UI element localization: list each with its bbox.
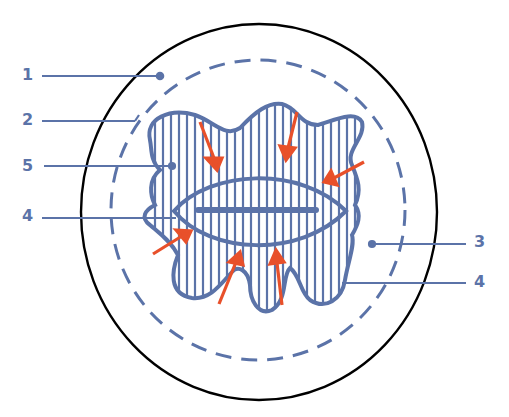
label-4-left: 4 bbox=[22, 208, 33, 224]
label-1: 1 bbox=[22, 67, 33, 83]
diagram-canvas bbox=[0, 0, 509, 417]
label-2: 2 bbox=[22, 112, 33, 128]
label-4-right: 4 bbox=[474, 274, 485, 290]
label-3: 3 bbox=[474, 234, 485, 250]
label-5: 5 bbox=[22, 158, 33, 174]
